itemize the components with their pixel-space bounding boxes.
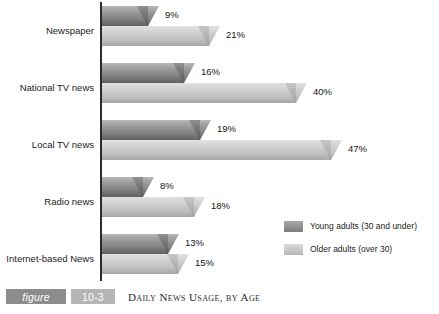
value-label-older-internet: 15% [195,257,214,269]
bar-older-internet[interactable] [102,254,189,274]
bar-young-newspaper[interactable] [102,6,159,26]
legend-item-young[interactable]: Young adults (30 and under) [284,218,417,234]
value-label-older-radio: 18% [211,200,230,212]
bar-face [102,140,342,160]
bar-older-national-tv[interactable] [102,83,307,103]
legend-swatch-icon-young [284,221,303,232]
figure-badge-number: 10-3 [71,289,115,304]
category-label-national-tv: National TV news [0,83,94,93]
value-label-older-national-tv: 40% [313,86,332,98]
figure-container: Newspaper National TV news Local TV news… [0,0,439,314]
category-label-newspaper: Newspaper [0,26,94,36]
figure-caption-title: Daily News Usage, by Age [128,291,260,303]
value-label-older-newspaper: 21% [226,29,245,41]
category-label-radio: Radio news [0,197,94,207]
bar-older-newspaper[interactable] [102,26,220,46]
bar-young-radio[interactable] [102,177,154,197]
bar-young-local-tv[interactable] [102,120,211,140]
value-label-young-radio: 8% [160,180,174,192]
bar-young-national-tv[interactable] [102,63,195,83]
bar-face [102,83,307,103]
value-label-young-internet: 13% [185,237,204,249]
legend-label-young: Young adults (30 and under) [310,221,417,231]
legend-label-older: Older adults (over 30) [310,244,392,254]
value-label-young-newspaper: 9% [165,9,179,21]
value-label-young-national-tv: 16% [201,66,220,78]
category-label-internet: Internet-based News [0,254,94,264]
bar-young-internet[interactable] [102,234,179,254]
value-label-young-local-tv: 19% [217,123,236,135]
legend-swatch-icon-older [284,244,303,255]
legend-item-older[interactable]: Older adults (over 30) [284,241,417,257]
figure-badge-word: figure [6,289,66,304]
value-label-older-local-tv: 47% [348,143,367,155]
chart-plot-area: Newspaper National TV news Local TV news… [0,0,439,283]
figure-caption: figure 10-3 Daily News Usage, by Age [6,289,260,304]
chart-legend: Young adults (30 and under) Older adults… [284,218,417,264]
bar-older-local-tv[interactable] [102,140,342,160]
category-label-local-tv: Local TV news [0,140,94,150]
bar-older-radio[interactable] [102,197,205,217]
